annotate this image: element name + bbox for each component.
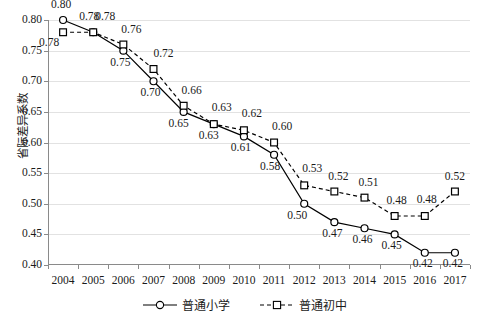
legend-item-junior[interactable]: 普通初中 (260, 296, 347, 314)
data-point[interactable] (301, 200, 308, 207)
data-point[interactable] (271, 151, 278, 158)
data-point[interactable] (421, 249, 428, 256)
y-axis-tick-label: 0.55 (4, 167, 42, 178)
data-label: 0.75 (102, 57, 138, 68)
data-label: 0.65 (161, 118, 197, 129)
y-axis-tick-label: 0.60 (4, 137, 42, 148)
data-label: 0.78 (71, 11, 107, 22)
x-axis-tick (138, 265, 139, 269)
data-point[interactable] (120, 41, 127, 48)
data-point[interactable] (391, 231, 398, 238)
data-label: 0.51 (351, 177, 387, 188)
data-point[interactable] (361, 194, 368, 201)
data-point[interactable] (150, 78, 157, 85)
data-label: 0.61 (223, 142, 259, 153)
legend-swatch-square-icon (260, 299, 294, 311)
data-point[interactable] (331, 188, 338, 195)
data-label: 0.50 (279, 210, 315, 221)
data-point[interactable] (60, 29, 67, 36)
data-point[interactable] (271, 139, 278, 146)
x-axis-tick (169, 265, 170, 269)
data-point[interactable] (452, 188, 459, 195)
x-axis-tick (380, 265, 381, 269)
data-point[interactable] (391, 213, 398, 220)
y-axis-tick-label: 0.50 (4, 198, 42, 209)
data-label: 0.52 (437, 171, 473, 182)
data-point[interactable] (451, 249, 458, 256)
data-label: 0.60 (264, 121, 300, 132)
x-axis-tick (229, 265, 230, 269)
data-label: 0.70 (133, 87, 169, 98)
data-point[interactable] (210, 121, 217, 128)
data-point[interactable] (361, 225, 368, 232)
y-axis-tick-label: 0.65 (4, 106, 42, 117)
data-label: 0.78 (31, 37, 67, 48)
y-axis-tick-label: 0.40 (4, 259, 42, 270)
legend-swatch-circle-icon (143, 299, 177, 311)
data-point[interactable] (90, 29, 97, 36)
data-label: 0.48 (409, 194, 445, 205)
legend-label-primary: 普通小学 (182, 296, 230, 314)
legend-item-primary[interactable]: 普通小学 (143, 296, 230, 314)
x-axis-tick-label: 2017 (435, 274, 475, 286)
x-axis-tick (349, 265, 350, 269)
data-point[interactable] (301, 182, 308, 189)
x-axis-tick (199, 265, 200, 269)
data-label: 0.76 (113, 24, 149, 35)
x-axis-tick (78, 265, 79, 269)
x-axis-tick (108, 265, 109, 269)
data-label: 0.66 (174, 85, 210, 96)
data-point[interactable] (241, 127, 248, 134)
data-point[interactable] (421, 213, 428, 220)
data-label: 0.58 (252, 161, 288, 172)
y-axis-tick-label: 0.80 (4, 14, 42, 25)
x-axis-tick (48, 265, 49, 269)
data-point[interactable] (331, 219, 338, 226)
data-point[interactable] (180, 102, 187, 109)
plot-area: 0.400.450.500.550.600.650.700.750.80 200… (48, 20, 470, 265)
line-chart: 省际差异系数 0.400.450.500.550.600.650.700.750… (0, 0, 489, 319)
data-label: 0.62 (234, 108, 270, 119)
data-label: 0.80 (43, 0, 79, 10)
x-axis-tick (259, 265, 260, 269)
y-axis-tick-label: 0.70 (4, 75, 42, 86)
data-point[interactable] (60, 17, 67, 24)
x-axis-tick (319, 265, 320, 269)
data-label: 0.42 (435, 258, 471, 269)
x-axis-tick (289, 265, 290, 269)
data-point[interactable] (150, 66, 157, 73)
y-axis-tick-label: 0.45 (4, 228, 42, 239)
chart-legend: 普通小学 普通初中 (0, 296, 489, 314)
legend-label-junior: 普通初中 (299, 296, 347, 314)
data-label: 0.45 (374, 240, 410, 251)
data-label: 0.72 (146, 48, 182, 59)
data-label: 0.63 (191, 130, 227, 141)
